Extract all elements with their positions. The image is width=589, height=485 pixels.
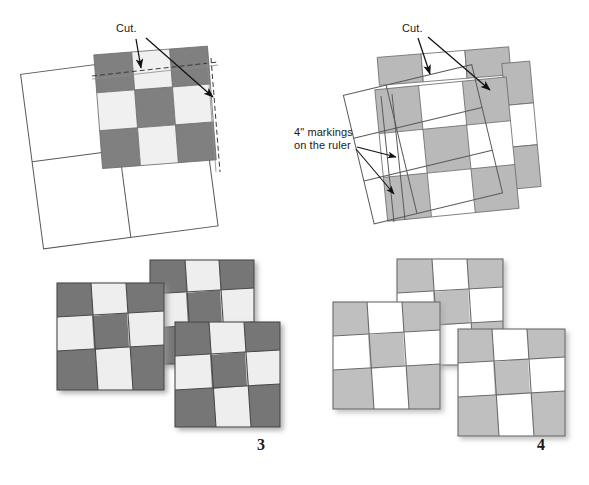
panel-4-group <box>333 259 565 436</box>
panel-2-group <box>343 37 541 224</box>
figure-canvas <box>0 0 589 485</box>
ruler-markings-label-line1: 4" markings <box>294 126 353 139</box>
panel-4-square-c <box>458 329 565 436</box>
panel-1-cut-label: Cut. <box>116 22 137 35</box>
step-number-4: 4 <box>537 436 545 454</box>
checkerboard-cells <box>375 77 519 221</box>
panel-3-square-c <box>175 322 280 427</box>
ruler-markings-label-line2: on the ruler <box>294 139 351 152</box>
panel-3-square-a <box>57 283 164 390</box>
step-number-3: 3 <box>257 436 265 454</box>
figure-root: Cut. Cut. 4" markings on the ruler 3 4 <box>0 0 589 485</box>
panel-2-checkerboard <box>375 77 519 221</box>
panel-2-cut-label: Cut. <box>402 22 423 35</box>
panel-1-group <box>21 38 220 249</box>
panel-4-square-a <box>333 302 440 409</box>
panel-3-group <box>57 260 280 427</box>
